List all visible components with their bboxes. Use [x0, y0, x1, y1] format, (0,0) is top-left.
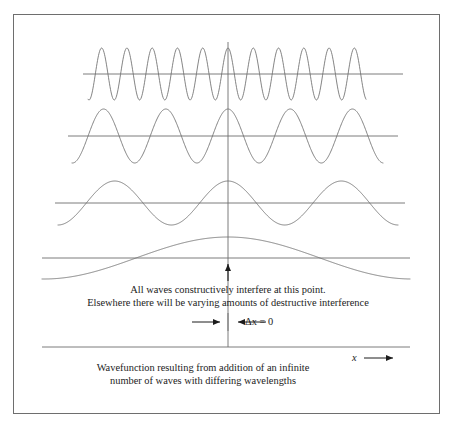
- constructive-interference-caption: All waves constructively interfere at th…: [28, 283, 428, 310]
- bottom-caption-line-1: Wavefunction resulting from addition of …: [38, 361, 368, 374]
- wave-path-group: [42, 48, 410, 279]
- wavefunction-caption: Wavefunction resulting from addition of …: [38, 361, 368, 388]
- bottom-caption-line-2: number of waves with differing wavelengt…: [38, 374, 368, 387]
- delta-x-annotation: Δx = 0: [245, 316, 273, 327]
- caption-line-1: All waves constructively interfere at th…: [28, 283, 428, 296]
- x-axis-label: x: [352, 352, 357, 363]
- caption-line-2: Elsewhere there will be varying amounts …: [28, 296, 428, 309]
- interference-figure: All waves constructively interfere at th…: [0, 0, 457, 424]
